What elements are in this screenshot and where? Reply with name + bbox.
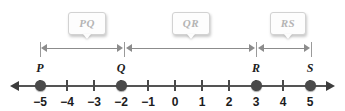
axis-tick xyxy=(228,80,230,91)
axis-tick xyxy=(147,80,149,91)
callout-rs: RS xyxy=(270,12,306,35)
tick-label-1: 1 xyxy=(189,96,215,108)
point-q xyxy=(116,80,127,91)
axis-tick xyxy=(174,80,176,91)
tick-label-3: 3 xyxy=(243,96,269,108)
arrow-shaft xyxy=(46,48,118,49)
span-endcap-r xyxy=(256,42,257,57)
tick-label--2: −2 xyxy=(108,96,134,108)
callout-pq: PQ xyxy=(68,12,106,35)
tick-label--4: −4 xyxy=(54,96,80,108)
tick-label-2: 2 xyxy=(216,96,242,108)
callout-tail-icon xyxy=(187,34,195,39)
span-arrow-rs xyxy=(258,43,310,55)
callout-pq-label: PQ xyxy=(79,18,95,29)
span-endcap-q xyxy=(124,42,125,57)
axis-arrow-left-icon xyxy=(10,81,19,91)
arrow-shaft xyxy=(131,48,250,49)
span-arrow-qr xyxy=(126,43,255,55)
number-line-axis xyxy=(18,85,327,87)
arrow-shaft xyxy=(263,48,305,49)
tick-label-5: 5 xyxy=(297,96,323,108)
point-label-s: S xyxy=(300,62,320,74)
arrow-right-icon xyxy=(304,44,310,52)
point-p xyxy=(35,80,46,91)
tick-label--3: −3 xyxy=(81,96,107,108)
axis-tick xyxy=(66,80,68,91)
tick-label-4: 4 xyxy=(270,96,296,108)
arrow-right-icon xyxy=(117,44,123,52)
axis-tick xyxy=(201,80,203,91)
callout-qr: QR xyxy=(172,12,210,35)
arrow-right-icon xyxy=(249,44,255,52)
point-label-p: P xyxy=(30,62,50,74)
callout-rs-label: RS xyxy=(281,18,295,29)
tick-label-0: 0 xyxy=(162,96,188,108)
tick-label--5: −5 xyxy=(27,96,53,108)
axis-tick xyxy=(282,80,284,91)
point-label-r: R xyxy=(246,62,266,74)
point-s xyxy=(305,80,316,91)
span-endcap-s xyxy=(311,42,312,57)
number-line-figure: PQ QR RS P Q R S xyxy=(0,0,345,111)
tick-label--1: −1 xyxy=(135,96,161,108)
callout-qr-label: QR xyxy=(183,18,199,29)
span-arrow-pq xyxy=(41,43,123,55)
callout-tail-icon xyxy=(83,34,91,39)
axis-tick xyxy=(93,80,95,91)
callout-tail-icon xyxy=(284,34,292,39)
axis-arrow-right-icon xyxy=(326,81,335,91)
point-label-q: Q xyxy=(111,62,131,74)
point-r xyxy=(251,80,262,91)
